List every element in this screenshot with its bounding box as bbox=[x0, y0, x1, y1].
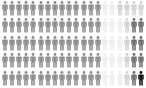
person-icon bbox=[37, 71, 44, 88]
person-icon bbox=[116, 18, 123, 35]
person-icon bbox=[59, 1, 66, 18]
person-icon bbox=[73, 36, 80, 53]
person-icon bbox=[44, 53, 51, 70]
person-icon bbox=[102, 18, 109, 35]
person-icon bbox=[37, 1, 44, 18]
person-icon bbox=[87, 1, 94, 18]
person-icon bbox=[94, 71, 101, 88]
person-icon bbox=[8, 1, 15, 18]
person-icon bbox=[116, 1, 123, 18]
person-icon bbox=[51, 71, 58, 88]
person-icon bbox=[73, 53, 80, 70]
person-icon bbox=[15, 1, 22, 18]
person-icon bbox=[59, 53, 66, 70]
person-icon bbox=[130, 36, 137, 53]
person-icon bbox=[8, 36, 15, 53]
person-icon bbox=[37, 53, 44, 70]
person-icon bbox=[94, 36, 101, 53]
person-icon bbox=[138, 71, 145, 88]
person-icon bbox=[23, 1, 30, 18]
person-icon bbox=[109, 36, 116, 53]
person-icon bbox=[123, 53, 130, 70]
person-icon bbox=[130, 53, 137, 70]
person-icon bbox=[30, 53, 37, 70]
person-icon bbox=[73, 1, 80, 18]
person-icon bbox=[80, 1, 87, 18]
person-icon bbox=[87, 18, 94, 35]
person-icon bbox=[30, 36, 37, 53]
person-icon bbox=[138, 18, 145, 35]
person-icon bbox=[66, 36, 73, 53]
person-icon bbox=[116, 53, 123, 70]
person-icon bbox=[59, 71, 66, 88]
person-icon bbox=[51, 36, 58, 53]
person-icon bbox=[66, 18, 73, 35]
person-icon bbox=[51, 53, 58, 70]
person-icon bbox=[94, 53, 101, 70]
person-icon bbox=[109, 53, 116, 70]
person-icon bbox=[94, 1, 101, 18]
person-icon bbox=[109, 71, 116, 88]
person-icon bbox=[130, 71, 137, 88]
person-icon bbox=[116, 71, 123, 88]
person-icon bbox=[102, 53, 109, 70]
person-icon bbox=[1, 71, 8, 88]
person-icon bbox=[66, 1, 73, 18]
person-icon bbox=[87, 71, 94, 88]
person-icon bbox=[30, 71, 37, 88]
person-icon bbox=[116, 36, 123, 53]
person-icon bbox=[8, 71, 15, 88]
person-icon bbox=[23, 36, 30, 53]
person-icon bbox=[102, 1, 109, 18]
person-icon bbox=[73, 71, 80, 88]
person-icon bbox=[30, 1, 37, 18]
person-icon bbox=[23, 53, 30, 70]
person-icon bbox=[37, 18, 44, 35]
person-icon bbox=[94, 18, 101, 35]
person-icon bbox=[15, 53, 22, 70]
person-icon bbox=[109, 18, 116, 35]
person-icon bbox=[138, 36, 145, 53]
person-icon bbox=[51, 1, 58, 18]
pictogram-grid bbox=[1, 1, 145, 88]
person-icon bbox=[80, 18, 87, 35]
person-icon bbox=[44, 18, 51, 35]
person-icon bbox=[80, 53, 87, 70]
person-icon bbox=[51, 18, 58, 35]
person-icon bbox=[66, 53, 73, 70]
person-icon bbox=[109, 1, 116, 18]
person-icon bbox=[15, 71, 22, 88]
person-icon bbox=[15, 36, 22, 53]
person-icon bbox=[15, 18, 22, 35]
person-icon bbox=[8, 18, 15, 35]
person-icon bbox=[1, 53, 8, 70]
person-icon bbox=[59, 18, 66, 35]
person-icon bbox=[1, 36, 8, 53]
person-icon bbox=[123, 1, 130, 18]
person-icon bbox=[130, 18, 137, 35]
person-icon bbox=[66, 71, 73, 88]
person-icon bbox=[138, 1, 145, 18]
person-icon bbox=[138, 53, 145, 70]
person-icon bbox=[23, 71, 30, 88]
person-icon bbox=[87, 53, 94, 70]
person-icon bbox=[80, 36, 87, 53]
person-icon bbox=[23, 18, 30, 35]
person-icon bbox=[44, 71, 51, 88]
person-icon bbox=[37, 36, 44, 53]
person-icon bbox=[130, 1, 137, 18]
person-icon bbox=[59, 36, 66, 53]
person-icon bbox=[87, 36, 94, 53]
person-icon bbox=[44, 36, 51, 53]
person-icon bbox=[1, 18, 8, 35]
person-icon bbox=[73, 18, 80, 35]
person-icon bbox=[44, 1, 51, 18]
person-icon bbox=[102, 36, 109, 53]
person-icon bbox=[8, 53, 15, 70]
person-icon bbox=[123, 36, 130, 53]
person-icon bbox=[1, 1, 8, 18]
person-icon bbox=[30, 18, 37, 35]
person-icon bbox=[123, 71, 130, 88]
person-icon bbox=[80, 71, 87, 88]
person-icon bbox=[123, 18, 130, 35]
